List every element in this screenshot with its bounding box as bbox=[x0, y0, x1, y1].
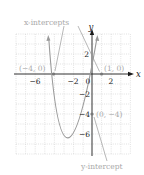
x-tick-neg2: −2 bbox=[67, 77, 78, 86]
label-y-intercept: (0, −4) bbox=[96, 110, 123, 119]
y-tick-neg2: −2 bbox=[79, 90, 90, 99]
x-tick-neg6: −6 bbox=[29, 77, 40, 86]
y-axis-label: y bbox=[88, 22, 94, 32]
label-x-intercept-right: (1, 0) bbox=[104, 64, 124, 73]
y-tick-neg6: −6 bbox=[79, 130, 90, 139]
annotation-y-intercept: y-intercept bbox=[80, 162, 123, 171]
point-y-intercept bbox=[90, 112, 93, 115]
y-tick-2: 2 bbox=[84, 50, 89, 59]
parabola-figure: −6 −2 0 2 2 −2 −4 −6 x y (−4, 0) (1, 0) … bbox=[0, 0, 144, 175]
point-x-intercept-right bbox=[100, 72, 103, 75]
x-axis-arrow-icon bbox=[128, 72, 134, 76]
curve-arrow-right-icon bbox=[95, 35, 99, 41]
grid bbox=[16, 34, 130, 154]
curve-arrow-left-icon bbox=[46, 35, 50, 41]
x-axis-label: x bbox=[136, 69, 141, 79]
axes bbox=[14, 29, 134, 156]
x-tick-0: 0 bbox=[86, 77, 91, 86]
x-tick-2: 2 bbox=[109, 77, 114, 86]
annotation-x-intercepts: x-intercepts bbox=[24, 18, 69, 27]
point-x-intercept-left bbox=[52, 72, 55, 75]
y-tick-neg4: −4 bbox=[79, 110, 90, 119]
label-x-intercept-left: (−4, 0) bbox=[19, 64, 46, 73]
parabola-curve bbox=[49, 39, 97, 138]
